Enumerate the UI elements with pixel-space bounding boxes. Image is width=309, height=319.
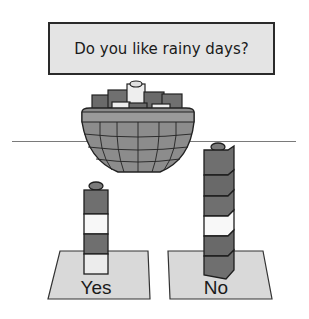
- yes-block-tower: [84, 182, 108, 274]
- pictograph-scene: [0, 0, 309, 319]
- no-block-tower: [204, 143, 234, 279]
- block-basket-icon: [82, 81, 194, 172]
- yes-label: Yes: [56, 277, 136, 299]
- no-label: No: [176, 277, 256, 299]
